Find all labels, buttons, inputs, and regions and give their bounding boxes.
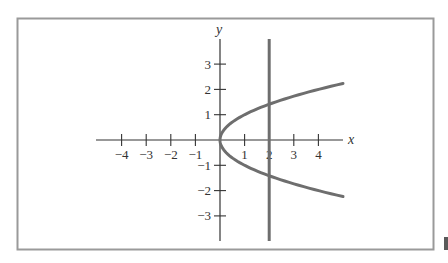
x-tick-label: 3 bbox=[291, 147, 298, 162]
x-tick-label: 4 bbox=[315, 147, 322, 162]
x-tick-label: −2 bbox=[164, 147, 178, 162]
corner-block bbox=[444, 237, 448, 250]
x-axis-label: x bbox=[347, 132, 355, 147]
y-tick-label: −2 bbox=[197, 183, 211, 198]
x-tick-label: 1 bbox=[241, 147, 248, 162]
parabola-figure: −4−3−2−11234321−1−2−3 x y bbox=[0, 0, 448, 263]
x-tick-label: −3 bbox=[139, 147, 153, 162]
y-tick-label: −3 bbox=[197, 208, 211, 223]
y-tick-label: 3 bbox=[205, 57, 212, 72]
y-tick-label: 2 bbox=[205, 82, 212, 97]
y-axis-label: y bbox=[214, 22, 223, 37]
y-tick-label: 1 bbox=[205, 107, 212, 122]
x-tick-label: −4 bbox=[115, 147, 129, 162]
y-tick-label: −1 bbox=[197, 158, 211, 173]
figure-frame bbox=[18, 19, 434, 250]
